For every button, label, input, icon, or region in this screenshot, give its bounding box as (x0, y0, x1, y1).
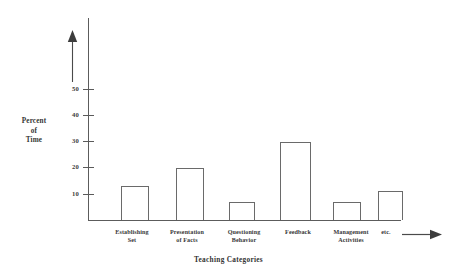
y-axis-label-line-2: of (6, 127, 62, 137)
y-axis-label-line-3: Time (6, 136, 62, 146)
y-axis-line (88, 18, 89, 221)
y-tick-label-10: 10 (57, 190, 79, 197)
x-axis-line (88, 220, 401, 221)
y-tick-mark-20 (83, 167, 94, 168)
category-label-questioning-behavior: Questioning Behavior (214, 228, 274, 244)
y-axis-direction-arrow-icon (66, 30, 79, 82)
category-label-establishing-set: Establishing Set (103, 228, 161, 244)
bar-management-activities (333, 202, 361, 220)
x-axis-title: Teaching Categories (0, 255, 457, 264)
bar-establishing-set (121, 186, 149, 220)
bar-questioning-behavior (229, 202, 255, 220)
bar-etc (378, 191, 403, 220)
y-axis-label: Percent of Time (6, 117, 62, 146)
category-label-presentation-of-facts: Presentation of Facts (156, 228, 218, 244)
y-tick-mark-40 (83, 115, 94, 116)
y-tick-label-40: 40 (57, 111, 79, 118)
y-tick-mark-50 (83, 89, 94, 90)
y-tick-mark-10 (83, 194, 94, 195)
y-axis-label-line-1: Percent (6, 117, 62, 127)
x-axis-direction-arrow-icon (402, 226, 442, 237)
y-tick-label-30: 30 (57, 137, 79, 144)
bar-presentation-of-facts (176, 168, 204, 220)
category-label-etc: etc. (368, 228, 404, 236)
y-tick-label-20: 20 (57, 163, 79, 170)
bar-feedback (280, 142, 311, 220)
category-label-feedback: Feedback (270, 228, 326, 236)
bar-chart-figure: Percent of Time 10 20 30 40 50 Establish… (0, 0, 457, 275)
y-tick-mark-30 (83, 141, 94, 142)
y-tick-label-50: 50 (57, 85, 79, 92)
